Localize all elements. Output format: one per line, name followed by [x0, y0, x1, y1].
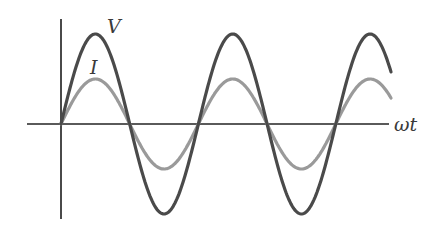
current-label: I: [89, 56, 98, 78]
phasor-waveform-diagram: V I ωt: [0, 0, 442, 230]
voltage-label: V: [107, 15, 123, 37]
x-axis-label: ωt: [394, 113, 417, 135]
